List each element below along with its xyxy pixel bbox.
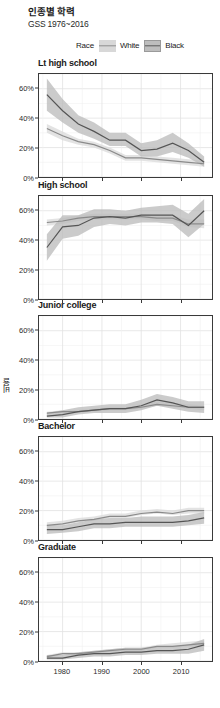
y-tick-mark: [35, 118, 38, 119]
x-tick-mark: [141, 420, 142, 423]
y-tick-label: 40%: [19, 477, 34, 486]
y-tick-mark: [35, 451, 38, 452]
y-tick-label: 40%: [19, 356, 34, 365]
x-tick-mark: [181, 541, 182, 544]
legend-item-black[interactable]: Black: [144, 40, 184, 52]
facet-panel-title: Lt high school: [38, 58, 97, 68]
y-tick-label: 40%: [19, 598, 34, 607]
x-tick-mark: [141, 541, 142, 544]
x-tick-mark: [102, 178, 103, 181]
x-tick-mark: [141, 300, 142, 303]
y-tick-mark: [35, 662, 38, 663]
legend-swatch-black-icon: [144, 40, 161, 52]
legend-label-black: Black: [165, 41, 184, 50]
x-tick-mark: [102, 300, 103, 303]
plot-area: 0%20%40%60%: [38, 315, 213, 420]
x-tick-mark: [102, 420, 103, 423]
plot-frame: [38, 436, 213, 541]
x-tick-mark: [181, 300, 182, 303]
y-tick-mark: [35, 602, 38, 603]
y-tick-label: 0%: [23, 537, 34, 546]
y-tick-label: 0%: [23, 296, 34, 305]
x-tick-mark: [181, 662, 182, 665]
y-tick-mark: [35, 572, 38, 573]
plot-area: 0%20%40%60%1980199020002010: [38, 557, 213, 662]
x-tick-mark: [141, 178, 142, 181]
legend-item-white[interactable]: White: [99, 40, 139, 52]
y-tick-mark: [35, 88, 38, 89]
facet-panel-title: Junior college: [38, 300, 96, 310]
plot-area: 0%20%40%60%: [38, 195, 213, 300]
x-tick-mark: [62, 662, 63, 665]
x-tick-mark: [141, 662, 142, 665]
y-tick-mark: [35, 511, 38, 512]
x-tick-label: 2000: [133, 667, 150, 676]
plot-frame: [38, 195, 213, 300]
plot-area: 0%20%40%60%: [38, 436, 213, 541]
y-tick-label: 20%: [19, 507, 34, 516]
legend: Race White Black: [76, 38, 184, 53]
y-tick-label: 60%: [19, 447, 34, 456]
y-tick-label: 40%: [19, 114, 34, 123]
x-tick-label: 1980: [54, 667, 71, 676]
legend-title: Race: [76, 41, 94, 50]
x-tick-mark: [181, 420, 182, 423]
y-tick-mark: [35, 178, 38, 179]
plot-area: 0%20%40%60%: [38, 73, 213, 178]
x-tick-label: 1990: [93, 667, 110, 676]
y-tick-label: 20%: [19, 628, 34, 637]
x-tick-mark: [102, 662, 103, 665]
x-tick-mark: [102, 541, 103, 544]
y-axis-title: 비율: [1, 378, 12, 393]
page-subtitle: GSS 1976~2016: [28, 19, 89, 29]
y-tick-mark: [35, 481, 38, 482]
y-tick-label: 20%: [19, 144, 34, 153]
facet-panel-title: Bachelor: [38, 421, 75, 431]
chart-figure: 인종별 학력 GSS 1976~2016 Race White Black 비율…: [0, 0, 220, 708]
y-tick-label: 0%: [23, 416, 34, 425]
y-tick-mark: [35, 270, 38, 271]
plot-frame: [38, 73, 213, 178]
y-tick-mark: [35, 632, 38, 633]
y-tick-label: 20%: [19, 386, 34, 395]
y-tick-mark: [35, 360, 38, 361]
page-title: 인종별 학력: [28, 4, 74, 18]
y-tick-mark: [35, 240, 38, 241]
plot-frame: [38, 557, 213, 662]
y-tick-label: 0%: [23, 658, 34, 667]
y-tick-label: 60%: [19, 84, 34, 93]
y-tick-mark: [35, 148, 38, 149]
plot-frame: [38, 315, 213, 420]
y-tick-mark: [35, 390, 38, 391]
y-tick-label: 20%: [19, 266, 34, 275]
y-tick-label: 40%: [19, 236, 34, 245]
y-tick-label: 0%: [23, 174, 34, 183]
x-tick-label: 2010: [173, 667, 190, 676]
legend-label-white: White: [120, 41, 139, 50]
y-tick-mark: [35, 210, 38, 211]
y-tick-label: 60%: [19, 568, 34, 577]
y-tick-mark: [35, 330, 38, 331]
y-tick-label: 60%: [19, 326, 34, 335]
facet-panel-title: High school: [38, 180, 87, 190]
x-tick-mark: [181, 178, 182, 181]
y-tick-label: 60%: [19, 206, 34, 215]
legend-swatch-white-icon: [99, 40, 116, 52]
facet-panel-title: Graduate: [38, 542, 76, 552]
